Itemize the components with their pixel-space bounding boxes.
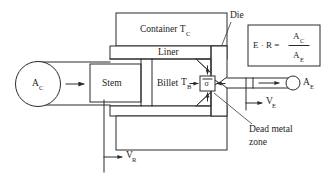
area-container-label: A (32, 78, 39, 88)
liner-label: Liner (158, 47, 179, 57)
extrusion-schematic-svg: A C Stem Billet Container T C Liner (0, 0, 326, 180)
billet-label: Billet (157, 78, 178, 88)
dead-metal-zone-upper (196, 59, 211, 73)
container-label: Container T (140, 24, 186, 34)
exit-velocity-sub: E (272, 102, 276, 109)
dead-metal-zone-label-line1: Dead metal (249, 124, 293, 134)
ram-velocity-sub: R (132, 156, 137, 163)
billet-temperature-sub: B (187, 83, 192, 90)
equation-denominator: A (293, 50, 300, 60)
equation-lhs: E · R = (253, 40, 279, 50)
equation-numerator-sub: C (300, 37, 305, 44)
container-bottom-block (116, 116, 227, 150)
dead-metal-zone-label-line2: zone (249, 137, 267, 147)
stress-symbol: σ (205, 79, 210, 88)
extrusion-diagram: A C Stem Billet Container T C Liner (0, 0, 326, 180)
equation-denominator-sub: E (300, 56, 304, 63)
stem-label: Stem (102, 78, 122, 88)
die-label: Die (230, 10, 244, 20)
equation-numerator: A (293, 31, 300, 41)
liner-bottom-strip (110, 106, 227, 116)
area-container-sub: C (39, 84, 44, 91)
area-exit-sub: E (310, 83, 314, 90)
area-exit-label: A (303, 77, 310, 87)
area-exit-circle (286, 76, 300, 90)
dead-metal-zone-lower (196, 92, 211, 106)
container-label-sub: C (186, 30, 191, 37)
